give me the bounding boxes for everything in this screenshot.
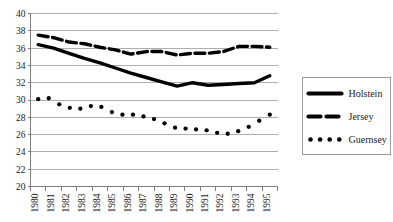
x-tick-label: 1993 — [231, 193, 241, 212]
y-tick-label: 28 — [16, 113, 26, 123]
x-tick-label: 1986 — [123, 193, 133, 212]
x-tick-label: 1992 — [215, 193, 225, 212]
legend-label: Guernsey — [349, 134, 387, 145]
y-tick-label: 26 — [16, 130, 26, 140]
x-tick-label: 1983 — [77, 193, 87, 212]
x-tick-label: 1990 — [185, 193, 195, 212]
x-tick-label: 1981 — [46, 193, 56, 212]
x-tick-label: 1988 — [154, 193, 164, 212]
x-tick-label: 1985 — [107, 193, 117, 212]
y-tick-label: 30 — [16, 95, 26, 105]
y-tick-label: 20 — [16, 182, 26, 192]
x-tick-label: 1989 — [169, 193, 179, 212]
line-chart: 4038363432302826242220 19801981198219831… — [0, 0, 393, 222]
chart-canvas: 4038363432302826242220 19801981198219831… — [0, 0, 393, 222]
y-tick-label: 24 — [16, 147, 26, 157]
x-tick-label: 1980 — [30, 193, 40, 212]
x-tick-label: 1984 — [92, 193, 102, 212]
y-tick-label: 34 — [16, 61, 26, 71]
x-tick-label: 1982 — [61, 193, 71, 212]
x-tick-label: 1994 — [246, 193, 256, 212]
y-tick-label: 22 — [16, 165, 26, 175]
x-tick-label: 1987 — [138, 193, 148, 212]
x-tick-label: 1995 — [262, 193, 272, 212]
y-tick-label: 36 — [16, 44, 26, 54]
legend-label: Jersey — [349, 111, 374, 122]
y-tick-label: 32 — [16, 78, 26, 88]
y-tick-label: 38 — [16, 26, 26, 36]
legend-label: Holstein — [349, 88, 383, 99]
legend: HolsteinJerseyGuernsey — [303, 78, 391, 155]
y-tick-label: 40 — [16, 9, 26, 19]
x-tick-label: 1991 — [200, 193, 210, 212]
